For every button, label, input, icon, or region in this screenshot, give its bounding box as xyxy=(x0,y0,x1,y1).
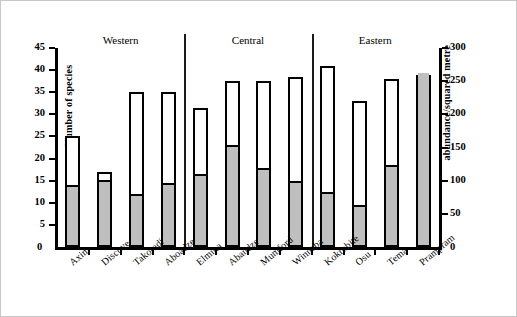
bar-grey-segment xyxy=(163,183,174,245)
y-left-tick xyxy=(49,91,55,93)
bar-grey-segment xyxy=(290,181,301,245)
y-right-tick xyxy=(442,213,448,215)
bar-grey-segment xyxy=(418,73,429,245)
plot-area: 0 0 51015202530354045 50100150200250300 … xyxy=(57,48,439,247)
y-axis-right-title: abundance/squared metre xyxy=(441,51,452,161)
y-right-tick-label: 100 xyxy=(450,175,480,186)
y-left-axis xyxy=(55,48,58,249)
y-left-tick-label: 35 xyxy=(19,86,45,97)
y-left-tick xyxy=(49,69,55,71)
y-left-tick-label: 10 xyxy=(19,197,45,208)
bar-tema xyxy=(384,79,399,247)
y-left-zero-label: 0 xyxy=(37,241,42,252)
bar-grey-segment xyxy=(386,165,397,245)
bar-kokrobite xyxy=(320,66,335,247)
y-left-tick-label: 30 xyxy=(19,108,45,119)
y-left-tick xyxy=(49,135,55,137)
region-label-eastern: Eastern xyxy=(330,34,420,46)
y-right-tick-label: 50 xyxy=(450,208,480,219)
bar-grey-segment xyxy=(99,180,110,245)
y-left-tick xyxy=(49,47,55,49)
y-right-tick-label: 250 xyxy=(450,75,480,86)
y-left-tick xyxy=(49,158,55,160)
region-separator xyxy=(312,34,314,247)
y-left-tick-label: 15 xyxy=(19,175,45,186)
bar-winneba xyxy=(288,77,303,247)
y-left-tick-label: 40 xyxy=(19,64,45,75)
y-left-tick-label: 25 xyxy=(19,130,45,141)
region-label-western: Western xyxy=(76,34,166,46)
bar-elmina xyxy=(193,108,208,247)
y-left-tick xyxy=(49,113,55,115)
bar-axim xyxy=(65,136,80,247)
bar-grey-segment xyxy=(227,145,238,245)
bar-abandze xyxy=(225,81,240,247)
y-left-tick xyxy=(49,224,55,226)
bar-mumford xyxy=(256,81,271,247)
bar-grey-segment xyxy=(131,194,142,245)
x-tick xyxy=(374,250,376,255)
region-separator xyxy=(184,34,186,247)
bar-aboadze xyxy=(161,92,176,247)
bar-prampram xyxy=(416,75,431,247)
bar-discove xyxy=(97,172,112,247)
y-left-tick xyxy=(49,202,55,204)
chart-figure: 0 0 51015202530354045 50100150200250300 … xyxy=(0,0,517,317)
bar-grey-segment xyxy=(258,168,269,245)
y-right-tick-label: 150 xyxy=(450,142,480,153)
bar-grey-segment xyxy=(322,192,333,245)
y-right-tick-label: 200 xyxy=(450,108,480,119)
x-category-label: Osu xyxy=(353,248,373,267)
y-left-tick-label: 20 xyxy=(19,153,45,164)
y-right-tick xyxy=(442,180,448,182)
bar-osu xyxy=(352,101,367,247)
y-left-tick-label: 45 xyxy=(19,42,45,53)
bar-grey-segment xyxy=(195,174,206,245)
y-right-tick-label: 300 xyxy=(450,42,480,53)
bar-takoradi xyxy=(129,92,144,247)
y-left-tick xyxy=(49,180,55,182)
bar-grey-segment xyxy=(67,185,78,245)
y-left-tick-label: 5 xyxy=(19,219,45,230)
region-label-central: Central xyxy=(203,34,293,46)
